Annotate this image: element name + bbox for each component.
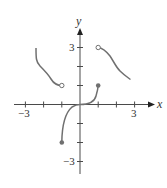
x-axis-arrow-icon [148, 102, 155, 108]
function-graph: x −3 3 y 3 −3 [0, 0, 167, 188]
x-tick-label-3: 3 [131, 107, 137, 119]
y-tick-label-neg3: −3 [63, 155, 75, 167]
y-axis-label: y [75, 14, 82, 28]
closed-endpoint-bottom [60, 140, 65, 145]
right-piece [96, 45, 131, 79]
y-tick-label-3: 3 [69, 41, 75, 53]
open-endpoint-right [96, 45, 100, 49]
y-axis: y 3 −3 [63, 14, 83, 174]
x-axis: x −3 3 [14, 97, 163, 119]
x-axis-label: x [156, 97, 163, 111]
closed-endpoint-top [96, 83, 101, 88]
y-axis-arrow-icon [77, 28, 83, 35]
x-tick-label-neg3: −3 [18, 107, 30, 119]
left-piece [36, 48, 64, 88]
open-endpoint-left [60, 83, 64, 87]
